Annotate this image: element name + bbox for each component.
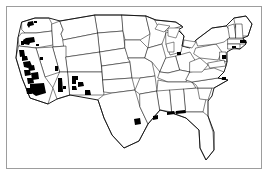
- us-map-canvas: [0, 0, 270, 178]
- us-county-map-svg: [0, 0, 270, 178]
- map-figure: [0, 0, 270, 178]
- state-boundaries: [16, 15, 252, 160]
